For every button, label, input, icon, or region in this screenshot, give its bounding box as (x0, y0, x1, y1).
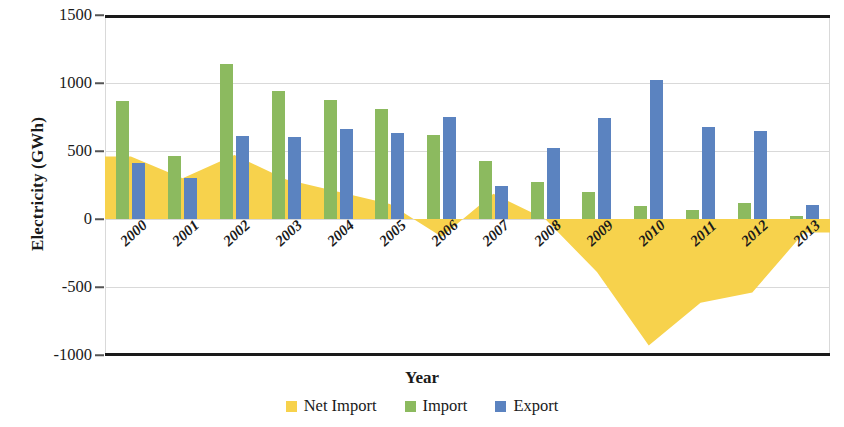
legend-label: Export (513, 396, 558, 416)
bar-export-2006 (443, 117, 456, 219)
chart-legend: Net ImportImportExport (0, 396, 844, 416)
legend-swatch (495, 401, 506, 412)
y-tick-mark (95, 14, 104, 16)
x-axis-title: Year (0, 368, 844, 388)
bar-import-2011 (686, 210, 699, 219)
y-tick-label: -1000 (0, 345, 92, 365)
legend-item: Net Import (286, 396, 377, 416)
y-tick-label: 0 (0, 209, 92, 229)
bar-import-2006 (427, 135, 440, 219)
bar-import-2003 (272, 91, 285, 219)
bar-export-2009 (598, 118, 611, 219)
y-tick-mark (95, 286, 104, 288)
bar-export-2003 (288, 137, 301, 219)
bar-import-2000 (116, 101, 129, 219)
y-tick-mark (95, 354, 104, 356)
bar-import-2001 (168, 156, 181, 219)
bar-import-2007 (479, 161, 492, 219)
bar-import-2004 (324, 100, 337, 219)
legend-label: Net Import (304, 396, 377, 416)
legend-swatch (405, 401, 416, 412)
bar-import-2008 (531, 182, 544, 219)
bar-import-2009 (582, 192, 595, 219)
y-tick-label: 1000 (0, 73, 92, 93)
y-tick-label: 500 (0, 141, 92, 161)
bar-export-2010 (650, 80, 663, 219)
y-tick-label: 1500 (0, 5, 92, 25)
plot-area (105, 15, 830, 355)
bar-import-2002 (220, 64, 233, 219)
legend-swatch (286, 401, 297, 412)
bar-import-2012 (738, 203, 751, 219)
bar-export-2000 (132, 163, 145, 219)
bar-export-2008 (547, 148, 560, 219)
legend-item: Export (495, 396, 558, 416)
electricity-trade-chart: Electricity (GWh) 150010005000-500-1000 … (0, 0, 844, 427)
bar-export-2005 (391, 133, 404, 219)
bar-group (105, 15, 830, 355)
bar-import-2013 (790, 216, 803, 219)
bar-export-2004 (340, 129, 353, 219)
y-tick-mark (95, 82, 104, 84)
y-tick-mark (95, 218, 104, 220)
bar-import-2005 (375, 109, 388, 219)
bar-export-2011 (702, 127, 715, 219)
y-tick-mark (95, 150, 104, 152)
y-axis-title: Electricity (GWh) (28, 54, 48, 314)
x-axis-ticks: 2000200120022003200420052006200720082009… (105, 225, 830, 295)
bar-export-2007 (495, 186, 508, 219)
bar-export-2002 (236, 136, 249, 219)
bar-export-2012 (754, 131, 767, 219)
bar-import-2010 (634, 206, 647, 219)
legend-item: Import (405, 396, 468, 416)
y-tick-label: -500 (0, 277, 92, 297)
legend-label: Import (423, 396, 468, 416)
bar-export-2001 (184, 178, 197, 219)
